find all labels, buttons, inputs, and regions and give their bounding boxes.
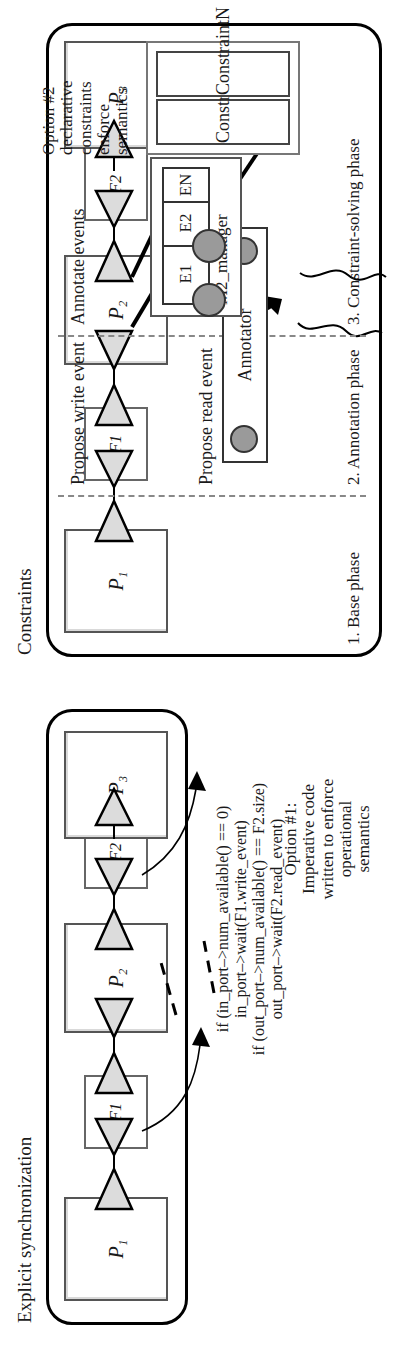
phase-divider-1 [58,495,366,497]
explicit-fifo-f1-label: F1 [107,1077,125,1147]
constraints-option-note: Option #2 declarative constraints enforc… [40,25,132,155]
explicit-fifo-f1: F1 [84,1075,148,1149]
constraints-fifo-f1-label: F1 [107,409,125,479]
annotator-port-dot-left [230,425,258,453]
constraint-box-n[interactable]: ConstraintN [156,51,290,97]
constraints-fifo-f2: F2 [84,147,148,221]
explicit-process-p2-label: P₂ [105,925,128,1031]
explicit-process-p2: P₂ [64,923,168,1033]
phase-divider-2 [58,335,366,337]
constraints-process-p1: P₁ [64,529,168,633]
constraints-fifo-f2-label: F2 [107,149,125,219]
explicit-code-block: if (in_port–>num_available() == 0) in_po… [214,689,286,1149]
explicit-process-p3-label: P₃ [105,733,128,837]
manager-dot-right [192,229,226,263]
explicit-code-line-1: if (in_port–>num_available() == 0) [214,689,232,1149]
phase-label-annotation: 2. Annotation phase [344,349,364,485]
constraints-panel-title: Constraints [14,568,36,655]
explicit-option-note-line-3: written to enforce [319,709,337,969]
event-label-annotate: Annotate events [68,209,89,325]
event-label-propose-write: Propose write event [68,342,89,485]
constraints-option-note-line-2: declarative [58,25,76,155]
explicit-process-p1: P₁ [64,1197,168,1301]
constraints-fifo-f1: F1 [84,407,148,481]
constraints-option-note-line-3: constraints [77,25,95,155]
constraint-box-n-label: ConstraintN [213,53,234,95]
constraint-box-1[interactable]: Constraint1 [156,99,290,145]
explicit-option-note-line-2: Imperative code [300,709,318,969]
constraints-process-p1-label: P₁ [105,531,128,631]
constraints-option-note-line-4: enforce [95,25,113,155]
explicit-leader-arrowheads [188,771,210,1047]
phase-label-constraint-solving: 3. Constraint-solving phase [344,138,364,325]
explicit-option-note-line-4: operational [337,709,355,969]
manager-event-cell-en: EN [162,167,210,203]
explicit-process-p3: P₃ [64,731,168,839]
constraints-process-p2-label: P₂ [105,257,128,363]
manager-event-cell-en-label: EN [176,169,196,201]
constraints-option-note-line-5: semantics [113,25,131,155]
explicit-code-line-3: if (out_port–>num_available() == F2.size… [250,689,268,1149]
event-label-propose-read: Propose read event [196,348,217,485]
explicit-panel-title: Explicit synchronization [14,1137,36,1323]
constraint-box-1-label: Constraint1 [213,101,234,143]
figure-canvas: Explicit synchronization P₁ F1 P₂ F2 [0,0,408,1345]
explicit-code-line-2: in_port–>wait(F1.write_event) [232,689,250,1149]
explicit-option-note-line-1: Option #1: [282,709,300,969]
figure-stage: Explicit synchronization P₁ F1 P₂ F2 [0,0,408,1345]
explicit-process-p1-label: P₁ [105,1199,128,1299]
constraints-option-note-line-1: Option #2 [40,25,58,155]
phase-label-base: 1. Base phase [344,552,364,645]
manager-dot-left [192,283,226,317]
explicit-option-note: Option #1: Imperative code written to en… [282,709,374,969]
explicit-option-note-line-5: semantics [355,709,373,969]
